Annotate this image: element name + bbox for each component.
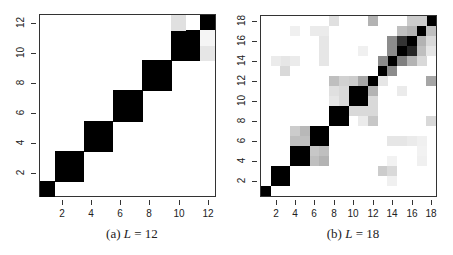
heatmap-cell — [300, 126, 310, 136]
heatmap-cell — [378, 166, 388, 176]
heatmap-cell — [387, 56, 397, 66]
heatmap-cell — [310, 126, 320, 136]
x-axis-tick — [149, 200, 150, 205]
heatmap-cell — [329, 76, 339, 86]
heatmap-cell — [157, 75, 172, 91]
x-axis-tick-label: 4 — [81, 208, 101, 219]
heatmap-cell — [368, 116, 378, 126]
heatmap-cell — [200, 45, 215, 61]
heatmap-cell — [290, 56, 300, 66]
heatmap-plot-area-b — [260, 15, 437, 197]
heatmap-cell — [397, 86, 407, 96]
heatmap-cell — [55, 151, 70, 167]
heatmap-cell — [319, 36, 329, 46]
heatmap-cell — [426, 76, 436, 86]
caption-variable: L — [124, 226, 131, 241]
heatmap-cell — [417, 16, 427, 26]
heatmap-cell — [358, 46, 368, 56]
heatmap-cell — [69, 166, 84, 182]
heatmap-cell — [200, 15, 215, 31]
y-axis-tick-label: 2 — [15, 163, 26, 183]
heatmap-cell — [397, 56, 407, 66]
heatmap-cell — [417, 46, 427, 56]
heatmap-cell — [426, 26, 436, 36]
x-axis-tick-label: 8 — [324, 208, 344, 219]
x-axis-tick-label: 2 — [52, 208, 72, 219]
heatmap-cell — [378, 76, 388, 86]
heatmap-cell — [417, 156, 427, 166]
heatmap-cell — [368, 86, 378, 96]
heatmap-cell — [271, 56, 281, 66]
heatmap-cell — [55, 166, 70, 182]
y-axis-tick — [31, 23, 36, 24]
heatmap-cell — [113, 106, 128, 122]
heatmap-cell — [113, 90, 128, 106]
caption-a: (a) L = 12 — [32, 226, 232, 242]
heatmap-cell — [397, 46, 407, 56]
heatmap-cell — [98, 136, 113, 152]
heatmap-cell — [261, 186, 271, 196]
x-axis-tick-label: 10 — [343, 208, 363, 219]
y-axis-tick — [252, 101, 257, 102]
heatmap-cell — [417, 146, 427, 156]
y-axis-tick-label: 16 — [236, 31, 247, 51]
y-axis-tick — [252, 161, 257, 162]
y-axis-tick-label: 18 — [236, 11, 247, 31]
heatmap-cell — [271, 166, 281, 176]
y-axis-tick-label: 8 — [236, 111, 247, 131]
y-axis-tick-label: 2 — [236, 171, 247, 191]
heatmap-cell — [397, 26, 407, 36]
heatmap-cell — [358, 86, 368, 96]
heatmap-cell — [319, 136, 329, 146]
y-axis-tick — [31, 113, 36, 114]
heatmap-cell — [290, 146, 300, 156]
heatmap-cell — [417, 136, 427, 146]
caption-b: (b) L = 18 — [253, 226, 453, 242]
heatmap-cell — [358, 76, 368, 86]
heatmap-cell — [280, 56, 290, 66]
heatmap-cell — [378, 66, 388, 76]
x-axis-tick-label: 12 — [363, 208, 383, 219]
heatmap-cell — [329, 86, 339, 96]
x-axis-tick — [276, 200, 277, 205]
heatmap-cell — [368, 76, 378, 86]
x-axis-tick-label: 2 — [266, 208, 286, 219]
heatmap-cell — [300, 146, 310, 156]
heatmap-cell — [290, 26, 300, 36]
heatmap-cell — [387, 66, 397, 76]
x-axis-tick-label: 4 — [285, 208, 305, 219]
heatmap-cell — [426, 16, 436, 26]
x-axis-tick-label: 18 — [421, 208, 441, 219]
heatmap-cell — [358, 106, 368, 116]
heatmap-cell — [280, 166, 290, 176]
x-axis-tick — [334, 200, 335, 205]
heatmap-cell — [310, 156, 320, 166]
y-axis-tick — [252, 181, 257, 182]
heatmap-cell — [171, 30, 186, 46]
y-axis-tick — [252, 21, 257, 22]
heatmap-cell — [319, 56, 329, 66]
heatmap-cell — [186, 30, 201, 46]
heatmap-cell — [387, 46, 397, 56]
heatmap-cell — [171, 45, 186, 61]
y-axis-tick — [252, 61, 257, 62]
heatmap-cell — [186, 45, 201, 61]
x-axis-tick — [314, 200, 315, 205]
heatmap-cell — [407, 36, 417, 46]
heatmap-cell — [349, 96, 359, 106]
x-axis-tick-label: 12 — [198, 208, 218, 219]
heatmap-cell — [339, 116, 349, 126]
heatmap-cell — [319, 156, 329, 166]
heatmap-cell — [339, 96, 349, 106]
y-axis-tick — [31, 173, 36, 174]
y-axis-tick-label: 12 — [15, 13, 26, 33]
x-axis-tick-label: 10 — [169, 208, 189, 219]
heatmap-cell — [358, 96, 368, 106]
heatmap-cell — [84, 136, 99, 152]
heatmap-cell — [329, 96, 339, 106]
x-axis-tick-label: 14 — [382, 208, 402, 219]
heatmap-cell — [128, 90, 143, 106]
caption-value: = 18 — [352, 226, 379, 241]
heatmap-cell — [417, 36, 427, 46]
heatmap-cell — [329, 116, 339, 126]
